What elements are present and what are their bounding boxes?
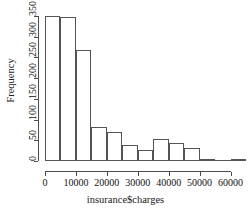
histogram-bar [169,143,184,161]
histogram-bar [215,160,230,161]
histogram-bar [107,132,122,161]
x-axis-tick-label: 10000 [63,177,88,188]
x-axis-tick-mark [200,172,201,176]
x-axis-tick-label: 0 [43,177,48,188]
x-axis-tick-mark [107,172,108,176]
histogram-bar [45,16,60,161]
histogram-bar [76,50,91,161]
x-axis-tick-label: 50000 [187,177,212,188]
histogram-bar [153,139,168,161]
x-axis-tick-label: 40000 [156,177,181,188]
histogram-bar [184,148,199,161]
histogram-bars [0,0,251,161]
histogram-bar [91,127,106,161]
x-axis-tick-label: 60000 [218,177,243,188]
x-axis-tick-mark [169,172,170,176]
x-axis-tick-label: 30000 [125,177,150,188]
histogram-bar [231,159,246,161]
histogram-bar [122,145,137,161]
histogram-bar [60,17,75,161]
x-axis-tick-mark [138,172,139,176]
histogram-bar [200,159,215,161]
y-axis-tick-mark [34,161,38,162]
x-axis-tick-mark [45,172,46,176]
x-axis-tick-label: 20000 [94,177,119,188]
histogram-plot: Frequency 050100150200250300350 01000020… [0,0,251,220]
x-axis-tick-mark [231,172,232,176]
histogram-bar [138,150,153,161]
x-axis-tick-mark [76,172,77,176]
x-axis-title: insurance$charges [0,194,251,205]
